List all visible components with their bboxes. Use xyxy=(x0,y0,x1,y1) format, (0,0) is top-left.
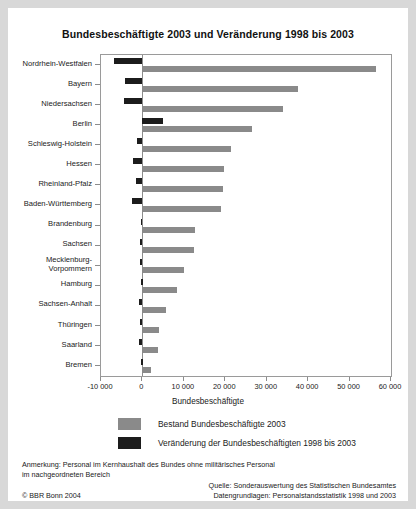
x-axis-tick xyxy=(141,377,142,381)
bar-change-11 xyxy=(140,259,143,265)
plot-area xyxy=(100,54,392,377)
bar-change-7 xyxy=(136,178,142,184)
bar-stock-4 xyxy=(142,126,252,132)
y-axis-labels: Nordrhein-WestfalenBayernNiedersachsenBe… xyxy=(8,54,100,377)
y-axis-label-4: Berlin xyxy=(73,120,92,129)
y-axis-label-10: Sachsen xyxy=(62,240,92,249)
chart-figure: Bundesbeschäftigte 2003 und Veränderung … xyxy=(8,8,408,501)
bar-stock-3 xyxy=(142,106,283,112)
y-axis-label-11: Mecklenburg- Vorpommern xyxy=(46,256,92,273)
legend-label-stock: Bestand Bundesbeschäftigte 2003 xyxy=(158,418,286,430)
y-axis-label-5: Schleswig-Holstein xyxy=(28,140,92,149)
y-axis-label-16: Bremen xyxy=(65,361,92,370)
chart-legend: Bestand Bundesbeschäftigte 2003 Veränder… xyxy=(8,416,408,454)
bar-change-15 xyxy=(139,339,143,345)
legend-swatch-change xyxy=(118,437,141,449)
x-axis-tick xyxy=(224,377,225,381)
bar-stock-5 xyxy=(142,146,231,152)
x-axis: -10 000010 00020 00030 00040 00050 00060… xyxy=(100,377,392,393)
bar-change-5 xyxy=(137,138,142,144)
legend-item-change: Veränderung der Bundesbeschäftigten 1998… xyxy=(8,435,408,454)
bar-change-13 xyxy=(139,299,142,305)
x-axis-tick xyxy=(183,377,184,381)
source-line-1: Quelle: Sonderauswertung des Statistisch… xyxy=(209,481,396,491)
x-axis-tick-label-2: 0 xyxy=(139,382,143,391)
bar-stock-11 xyxy=(142,267,183,273)
x-axis-tick xyxy=(100,377,101,381)
x-axis-title: Bundesbeschäftigte xyxy=(8,397,408,406)
bar-change-8 xyxy=(132,198,142,204)
bar-change-14 xyxy=(140,319,142,325)
bar-stock-9 xyxy=(142,227,195,233)
bar-change-4 xyxy=(142,118,163,124)
y-axis-label-3: Niedersachsen xyxy=(41,100,92,109)
bar-change-9 xyxy=(141,219,143,225)
bar-stock-1 xyxy=(142,66,376,72)
y-axis-label-12: Hamburg xyxy=(61,280,92,289)
bar-stock-14 xyxy=(142,327,159,333)
bar-change-6 xyxy=(133,158,142,164)
footnote-line-1: Anmerkung: Personal im Kernhaushalt des … xyxy=(22,460,275,470)
source-line-2: Datengrundlagen: Personalstandsstatistik… xyxy=(213,491,396,501)
x-axis-tick-label-4: 20 000 xyxy=(213,382,236,391)
legend-label-change: Veränderung der Bundesbeschäftigten 1998… xyxy=(158,437,356,449)
legend-item-stock: Bestand Bundesbeschäftigte 2003 xyxy=(8,416,408,435)
x-axis-tick xyxy=(307,377,308,381)
bar-change-16 xyxy=(141,359,143,365)
x-axis-tick-label-1: -10 000 xyxy=(87,382,112,391)
bar-change-10 xyxy=(140,239,142,245)
copyright-notice: © BBR Bonn 2004 xyxy=(22,491,81,501)
y-axis-label-8: Baden-Württemberg xyxy=(24,200,92,209)
bar-change-3 xyxy=(124,98,143,104)
bar-stock-15 xyxy=(142,347,158,353)
x-axis-tick-label-8: 60 000 xyxy=(379,382,402,391)
y-axis-label-9: Brandenburg xyxy=(48,220,92,229)
bar-stock-16 xyxy=(142,367,150,373)
bar-stock-12 xyxy=(142,287,176,293)
bar-change-12 xyxy=(141,279,143,285)
y-axis-label-6: Hessen xyxy=(66,160,92,169)
bar-stock-8 xyxy=(142,206,221,212)
x-axis-tick xyxy=(266,377,267,381)
bar-stock-10 xyxy=(142,247,193,253)
chart-title: Bundesbeschäftigte 2003 und Veränderung … xyxy=(8,28,408,40)
y-axis-label-2: Bayern xyxy=(68,80,92,89)
x-axis-tick-label-3: 10 000 xyxy=(172,382,195,391)
bar-stock-2 xyxy=(142,86,297,92)
y-axis-label-7: Rheinland-Pfalz xyxy=(38,180,92,189)
bar-stock-7 xyxy=(142,186,223,192)
bar-stock-13 xyxy=(142,307,165,313)
x-axis-tick-label-6: 40 000 xyxy=(296,382,319,391)
x-axis-tick-label-5: 30 000 xyxy=(254,382,277,391)
bar-stock-6 xyxy=(142,166,224,172)
legend-swatch-stock xyxy=(118,418,141,430)
x-axis-tick xyxy=(349,377,350,381)
bar-change-2 xyxy=(125,78,143,84)
bar-change-1 xyxy=(114,58,142,64)
y-axis-label-1: Nordrhein-Westfalen xyxy=(22,60,92,69)
x-axis-tick xyxy=(390,377,391,381)
y-axis-label-14: Thüringen xyxy=(58,321,92,330)
y-axis-label-13: Sachsen-Anhalt xyxy=(38,300,92,309)
x-axis-tick-label-7: 50 000 xyxy=(337,382,360,391)
y-axis-label-15: Saarland xyxy=(62,341,92,350)
footnote-line-2: im nachgeordneten Bereich xyxy=(22,470,110,480)
